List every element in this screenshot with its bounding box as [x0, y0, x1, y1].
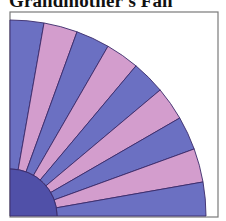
quilt-block [0, 0, 226, 221]
